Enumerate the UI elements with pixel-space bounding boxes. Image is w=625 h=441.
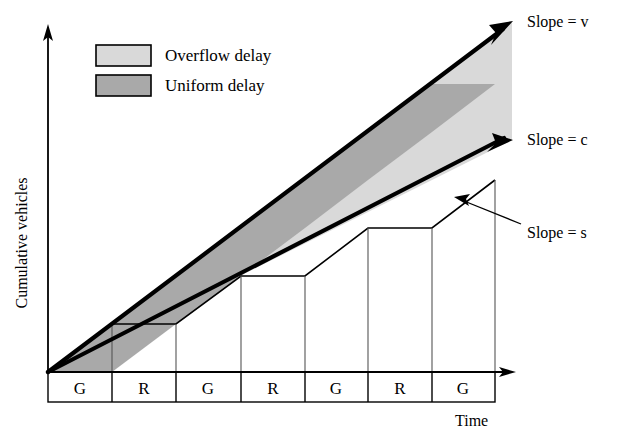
slope-v-label: Slope = v xyxy=(527,13,588,31)
capacity-line-slope-c xyxy=(48,133,513,372)
capacity-line xyxy=(48,138,504,372)
signal-phase-timeline: G R G R G R G xyxy=(48,372,495,402)
slope-s-leader xyxy=(454,194,521,224)
y-axis-label: Cumulative vehicles xyxy=(13,177,30,308)
uniform-delay-legend-label: Uniform delay xyxy=(165,76,265,95)
phase-cell-4: R xyxy=(267,379,279,398)
cumulative-vehicles-diagram: G R G R G R G Overflow delay Uniform del… xyxy=(0,0,625,441)
overflow-delay-swatch xyxy=(96,45,151,66)
phase-cell-2: R xyxy=(138,379,150,398)
phase-cell-7: G xyxy=(457,379,469,398)
slope-s-label: Slope = s xyxy=(527,224,587,242)
uniform-delay-swatch xyxy=(96,75,151,96)
phase-cell-1: G xyxy=(74,379,86,398)
legend: Overflow delay Uniform delay xyxy=(96,45,272,96)
phase-cell-6: R xyxy=(394,379,406,398)
arrival-line-slope-v xyxy=(48,21,513,372)
x-axis-label: Time xyxy=(455,412,488,429)
slope-s-leader-line xyxy=(464,201,521,224)
slope-c-label: Slope = c xyxy=(527,131,588,149)
phase-cell-5: G xyxy=(330,379,342,398)
diagram-canvas: G R G R G R G Overflow delay Uniform del… xyxy=(0,0,625,441)
overflow-delay-legend-label: Overflow delay xyxy=(165,46,272,65)
phase-cell-3: G xyxy=(202,379,214,398)
